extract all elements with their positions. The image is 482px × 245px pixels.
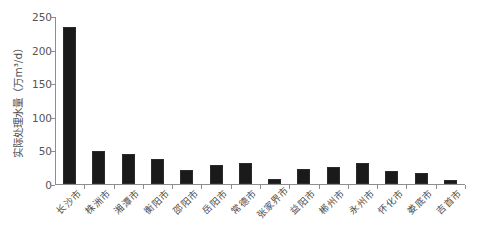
y-axis-tick-label: 100: [32, 113, 52, 124]
x-axis-tick-labels: 长沙市株洲市湘潭市衡阳市邵阳市岳阳市常德市张家界市益阳市郴州市永州市怀化市娄底市…: [55, 188, 475, 245]
y-axis-tick-label: 200: [32, 45, 52, 56]
x-axis-tick-label: 郴州市: [314, 188, 346, 220]
x-axis-tick-label: 怀化市: [372, 188, 404, 220]
y-axis-tick-mark: [51, 118, 55, 119]
x-axis-tick-label: 常德市: [226, 188, 258, 220]
bar: [180, 170, 193, 184]
bar-series: [55, 17, 465, 184]
y-axis-tick-label: 150: [32, 79, 52, 90]
bar: [444, 180, 457, 184]
y-axis-tick-labels: 050100150200250: [26, 0, 52, 245]
x-axis-tick-label: 张家界市: [255, 188, 287, 220]
bar: [297, 169, 310, 184]
x-axis-tick-label: 长沙市: [50, 188, 82, 220]
plot-area: [55, 17, 465, 185]
bar: [151, 159, 164, 184]
y-axis-title: 实际处理水量（万m³/d）: [13, 43, 24, 158]
y-axis-tick-mark: [51, 51, 55, 52]
x-axis-tick-label: 吉首市: [431, 188, 463, 220]
x-axis-tick-label: 湘潭市: [109, 188, 141, 220]
bar: [356, 163, 369, 184]
bar: [239, 163, 252, 184]
x-axis-tick-label: 衡阳市: [138, 188, 170, 220]
y-axis-tick-mark: [51, 151, 55, 152]
y-axis-tick-label: 50: [39, 146, 52, 157]
x-axis-tick-label: 株洲市: [79, 188, 111, 220]
bar: [92, 151, 105, 184]
bar: [415, 173, 428, 184]
bar: [385, 171, 398, 184]
bar-chart-figure: 实际处理水量（万m³/d） 050100150200250 长沙市株洲市湘潭市衡…: [0, 0, 482, 245]
y-axis-tick-mark: [51, 17, 55, 18]
x-axis-tick-label: 邵阳市: [167, 188, 199, 220]
x-axis-tick-label: 岳阳市: [197, 188, 229, 220]
x-axis-tick-label: 娄底市: [402, 188, 434, 220]
y-axis-tick-label: 250: [32, 12, 52, 23]
y-axis-tick-mark: [51, 84, 55, 85]
bar: [122, 154, 135, 184]
x-axis-tick-label: 永州市: [343, 188, 375, 220]
y-axis-tick-mark: [51, 185, 55, 186]
bar: [63, 27, 76, 184]
y-axis-title-container: 实际处理水量（万m³/d）: [9, 14, 27, 186]
bar: [210, 165, 223, 184]
bar: [327, 167, 340, 184]
bar: [268, 179, 281, 184]
